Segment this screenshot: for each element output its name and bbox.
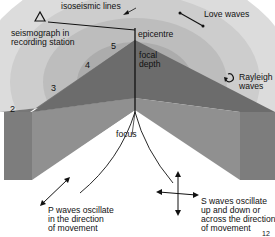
double-arrow-icon	[40, 177, 70, 206]
cross-arrow-icon	[156, 171, 199, 216]
zone-label-5: 5	[111, 41, 116, 51]
zone-label-2: 2	[10, 104, 15, 114]
seismograph-label-2: recording station	[11, 38, 75, 48]
zone-label-4: 4	[85, 60, 90, 70]
s-waves-label-4: of movement	[201, 224, 251, 234]
focal-depth-label-2: depth	[139, 60, 161, 70]
rayleigh-label-2: waves	[239, 82, 263, 92]
right-block-side	[240, 112, 275, 180]
love-waves-label: Love waves	[204, 10, 249, 20]
focus-label: focus	[116, 130, 137, 140]
p-waves-label-3: of movement	[48, 224, 98, 234]
right-block-face	[135, 98, 240, 180]
isoseismic-label: isoseismic lines	[61, 2, 121, 12]
page-number: 12	[262, 229, 270, 237]
left-block-side	[4, 112, 32, 180]
zone-label-3: 3	[51, 83, 56, 93]
epicentre-label: epicentre	[138, 30, 173, 40]
